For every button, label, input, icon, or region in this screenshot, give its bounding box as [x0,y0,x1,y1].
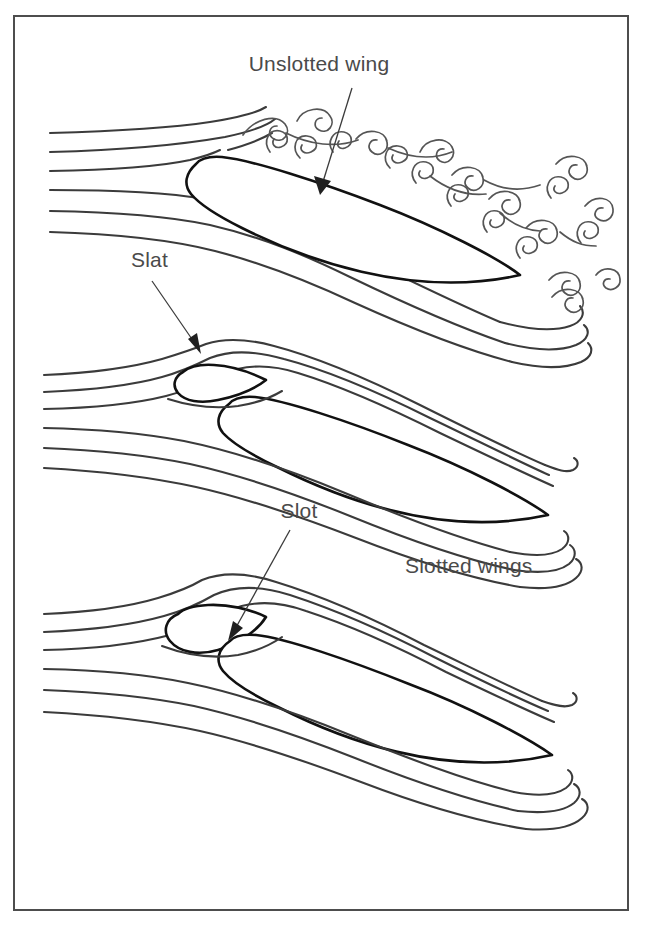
vortex-swirl [452,167,483,190]
vortex-swirl [420,140,453,162]
streamline [514,770,572,795]
slotted-wing-slat-panel [44,281,582,588]
vortex-swirl [412,162,433,183]
vortex-swirl [356,131,387,154]
label-slot: Slot [281,499,318,522]
vortex-swirl [596,269,620,289]
streamline [50,107,266,133]
vortex-swirl [549,272,580,295]
figure-caption [14,918,434,927]
vortex-swirl [556,156,587,179]
vortex-swirl [577,222,598,243]
leader-line-slat [152,281,196,345]
streamline [518,784,580,812]
streamline [542,693,577,706]
airfoil-main [218,397,548,522]
unslotted-wing-panel [50,88,620,367]
vortex-filament [286,133,358,144]
label-unslotted-wing: Unslotted wing [249,52,390,75]
streamline [526,799,588,830]
vortex-swirl [516,237,537,258]
vortex-swirl [385,146,407,168]
leader-line-unslotted-wing [322,88,352,185]
vortex-swirl [295,136,316,158]
vortex-swirl [526,220,557,243]
vortex-swirl [552,289,583,312]
streamline [500,306,583,329]
label-slotted-wings: Slotted wings [405,554,533,577]
trailing-edge-wake [514,693,588,830]
label-slat: Slat [131,248,168,271]
vortex-filament [484,180,540,189]
streamline [510,531,568,555]
trailing-edge-wake [500,289,591,367]
streamline [545,458,578,471]
vortex-swirl [297,109,332,131]
vortex-swirl [267,131,288,152]
vortex-swirl [585,198,613,220]
vortex-swirl [547,177,568,198]
wing-airflow-diagram: Unslotted wing Slat Slot Slotted wings [0,0,646,927]
figure-root: Unslotted wing Slat Slot Slotted wings [0,0,646,927]
